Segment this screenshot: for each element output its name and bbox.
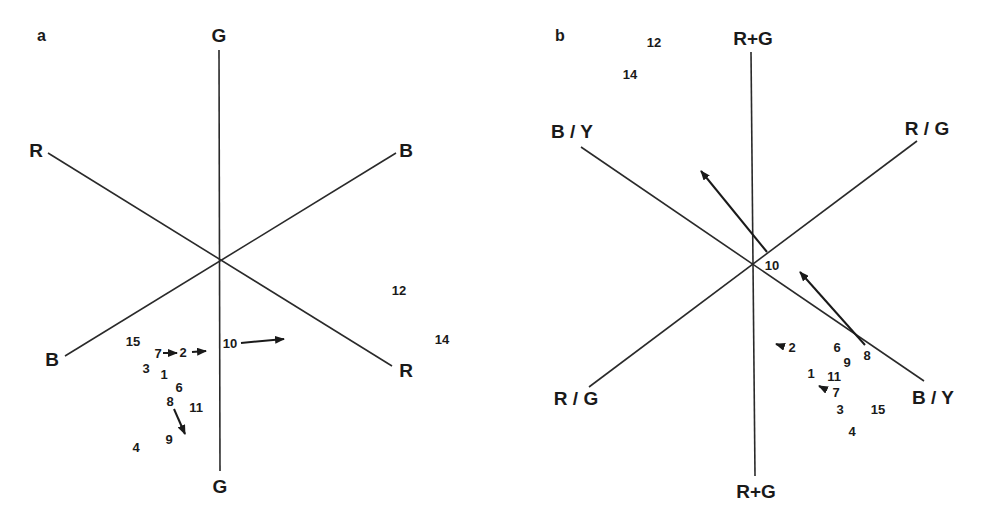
point-b-4: 4 [848, 425, 855, 438]
axis-label-g-top: G [212, 26, 227, 45]
point-a-7: 7 [154, 347, 161, 360]
point-b-1: 1 [807, 367, 814, 380]
point-b-10: 10 [765, 259, 779, 272]
axis-label-b-upper-right: B [399, 141, 413, 160]
point-a-4: 4 [132, 441, 139, 454]
axis-label-rg-sum-bottom: R+G [736, 482, 776, 501]
point-a-9: 9 [165, 433, 172, 446]
axis-b [65, 153, 396, 356]
axis-label-r-lower-right: R [399, 361, 413, 380]
point-a-2: 2 [179, 346, 186, 359]
point-b-2: 2 [788, 341, 795, 354]
panel-a-label: a [37, 28, 46, 44]
diagram-canvas [0, 0, 987, 518]
point-a-6: 6 [175, 381, 182, 394]
arrow-8-b [800, 272, 865, 345]
point-b-14: 14 [623, 68, 637, 81]
arrow-2 [192, 351, 206, 352]
axis-label-by-upper-left: B / Y [551, 122, 593, 141]
panel-a-axes [48, 50, 396, 471]
arrow-7-b [819, 386, 827, 390]
axis-label-rg-ratio-lower-left: R / G [554, 389, 598, 408]
point-a-10: 10 [223, 337, 237, 350]
point-b-15: 15 [871, 403, 885, 416]
axis-label-r-upper-left: R [29, 141, 43, 160]
arrow-10 [241, 339, 284, 343]
arrow-10-b [701, 171, 767, 252]
point-b-3: 3 [836, 403, 843, 416]
axis-label-g-bottom: G [213, 477, 228, 496]
axis-label-rg-sum-top: R+G [733, 29, 773, 48]
arrow-8 [174, 409, 185, 434]
axis-label-by-lower-right: B / Y [912, 388, 954, 407]
point-a-3: 3 [142, 362, 149, 375]
point-b-9: 9 [843, 356, 850, 369]
panel-b-arrows [701, 171, 865, 390]
point-b-11: 11 [827, 370, 841, 383]
point-a-11: 11 [189, 401, 203, 414]
point-a-1: 1 [160, 368, 167, 381]
point-b-8: 8 [863, 349, 870, 362]
point-a-8: 8 [166, 395, 173, 408]
axis-label-b-lower-left: B [45, 350, 59, 369]
axis-label-rg-ratio-upper-right: R / G [905, 119, 949, 138]
point-a-14: 14 [435, 333, 449, 346]
point-b-6: 6 [833, 341, 840, 354]
point-b-12: 12 [647, 36, 661, 49]
point-a-15: 15 [126, 335, 140, 348]
arrow-2-b [776, 344, 782, 346]
point-b-7: 7 [832, 386, 839, 399]
panel-b-label: b [555, 28, 565, 44]
point-a-12: 12 [392, 284, 406, 297]
